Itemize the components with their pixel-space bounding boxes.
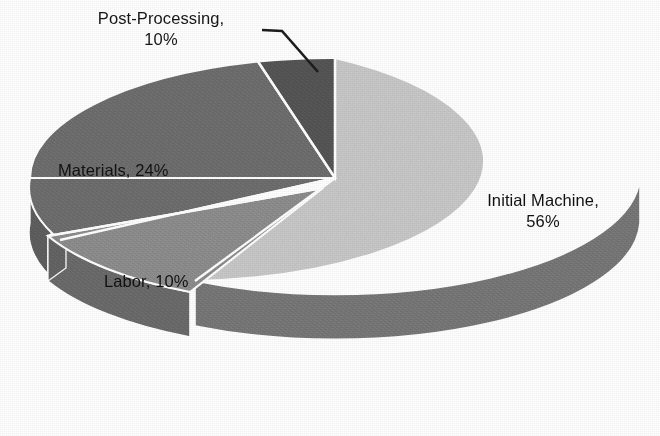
slice-label-post-processing: Post-Processing, 10% [46, 8, 276, 50]
slice-label-materials: Materials, 24% [58, 160, 228, 181]
pie-chart: Post-Processing, 10% Materials, 24% Labo… [0, 0, 660, 436]
slice-label-initial-machine: Initial Machine, 56% [448, 190, 638, 232]
slice-label-labor: Labor, 10% [104, 271, 254, 292]
